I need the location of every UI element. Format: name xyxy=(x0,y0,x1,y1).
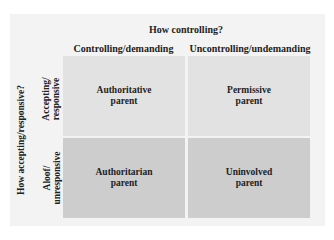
column-header-uncontrolling: Uncontrolling/undemanding xyxy=(188,43,312,54)
column-axis-title: How controlling? xyxy=(62,24,310,35)
cell-permissive: Permissive parent xyxy=(188,56,310,136)
row-header-accepting: Accepting/ responsive xyxy=(41,69,63,129)
cell-uninvolved: Uninvolved parent xyxy=(188,138,310,218)
row-axis-title: How accepting/responsive? xyxy=(16,80,28,200)
row-header-aloof: Aloof/ unresponsive xyxy=(42,143,64,213)
column-header-controlling: Controlling/demanding xyxy=(62,43,185,54)
cell-authoritative: Authoritative parent xyxy=(63,56,185,136)
cell-authoritarian: Authoritarian parent xyxy=(63,138,185,218)
